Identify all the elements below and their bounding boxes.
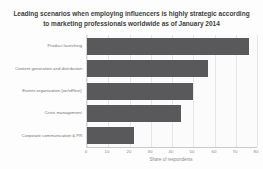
bar-series [87,35,257,147]
bar-row [87,35,257,57]
bar [87,38,249,55]
bar-row [87,102,257,124]
x-axis-label: Share of respondents [107,157,235,162]
category-label: Content generation and distribution [15,66,82,70]
x-tick-label: 60 [211,149,216,153]
x-tick-label: 70 [232,149,237,153]
x-tick-label: 80 [254,149,259,153]
x-tick-label: 30 [147,149,152,153]
x-axis-ticks: 01020304050607080 [86,149,256,157]
x-tick-label: 50 [190,149,195,153]
category-label: Events organization (on/offline) [23,89,82,93]
category-row: Crisis management [0,102,82,124]
chart-title: Leading scenarios when employing influen… [10,9,254,29]
category-label: Crisis management [45,111,82,115]
bar [87,60,208,77]
category-row: Corporate communication & PR [0,125,82,147]
bar [87,83,193,100]
bar [87,105,181,122]
x-tick-label: 10 [105,149,110,153]
gridline [257,35,258,147]
category-label: Corporate communication & PR [21,134,82,138]
category-row: Content generation and distribution [0,57,82,79]
bar-row [87,125,257,147]
x-tick-label: 0 [85,149,87,153]
category-label: Product launching [47,44,82,48]
chart-container: Leading scenarios when employing influen… [0,0,263,169]
x-tick-label: 20 [126,149,131,153]
bar [87,127,134,144]
bar-row [87,57,257,79]
bar-row [87,80,257,102]
x-tick-label: 40 [169,149,174,153]
plot-area [86,35,257,148]
category-row: Events organization (on/offline) [0,80,82,102]
category-row: Product launching [0,35,82,57]
category-axis: Product launchingContent generation and … [0,35,82,147]
